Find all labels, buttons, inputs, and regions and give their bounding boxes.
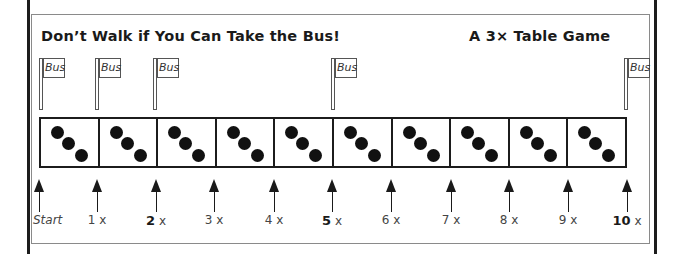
bus-flag: Bus <box>153 58 193 110</box>
arrow-up-icon <box>563 179 573 192</box>
arrow-up-icon <box>327 179 337 192</box>
dice-dot-icon <box>544 149 557 162</box>
arrow-shaft <box>156 192 157 212</box>
multiple-marker: 3 x <box>184 179 244 227</box>
marker-label: 2 x <box>126 213 186 228</box>
dice-dot-icon <box>589 137 602 150</box>
marker-label: 5 x <box>302 213 362 228</box>
dice-dot-icon <box>110 126 123 139</box>
bus-flag-label: Bus <box>335 58 357 78</box>
dice-dot-icon <box>414 137 427 150</box>
arrow-up-icon <box>386 179 396 192</box>
dice-dot-icon <box>355 137 368 150</box>
bus-flag-label: Bus <box>157 58 179 78</box>
multiple-marker: 9 x <box>538 179 598 227</box>
arrow-up-icon <box>151 179 161 192</box>
arrow-shaft <box>451 192 452 212</box>
bus-flag-label: Bus <box>99 58 121 78</box>
arrow-up-icon <box>504 179 514 192</box>
dice-dot-icon <box>51 126 64 139</box>
arrow-up-icon <box>209 179 219 192</box>
arrow-shaft <box>274 192 275 212</box>
multiple-marker: 7 x <box>421 179 481 227</box>
multiple-marker: 2 x <box>126 179 186 228</box>
arrow-shaft <box>97 192 98 212</box>
marker-label: 10 x <box>597 213 657 228</box>
game-title: Don’t Walk if You Can Take the Bus! <box>41 28 340 44</box>
dice-dot-icon <box>531 137 544 150</box>
multiple-marker: 1 x <box>67 179 127 227</box>
arrow-shaft <box>39 192 40 212</box>
dice-dot-icon <box>238 137 251 150</box>
dice-dot-icon <box>168 126 181 139</box>
dice-dot-icon <box>485 149 498 162</box>
bus-flag: Bus <box>95 58 135 110</box>
dice-dot-icon <box>403 126 416 139</box>
dice-dot-icon <box>427 149 440 162</box>
multiple-marker: 10 x <box>597 179 657 228</box>
board-cell <box>41 119 100 166</box>
multiple-marker: 5 x <box>302 179 362 228</box>
board-cell <box>275 119 334 166</box>
arrow-up-icon <box>92 179 102 192</box>
arrow-shaft <box>627 192 628 212</box>
marker-label: Start <box>9 213 69 227</box>
dice-dot-icon <box>134 149 147 162</box>
multiple-marker: 6 x <box>361 179 421 227</box>
dice-dot-icon <box>461 126 474 139</box>
arrow-up-icon <box>446 179 456 192</box>
dice-dot-icon <box>192 149 205 162</box>
arrow-shaft <box>391 192 392 212</box>
multiple-marker: 8 x <box>479 179 539 227</box>
board-cell <box>451 119 510 166</box>
dice-dot-icon <box>296 137 309 150</box>
game-subtitle: A 3× Table Game <box>469 28 610 44</box>
board-cell <box>217 119 276 166</box>
arrow-shaft <box>214 192 215 212</box>
marker-label: 3 x <box>184 213 244 227</box>
dice-dot-icon <box>368 149 381 162</box>
bus-flag: Bus <box>39 58 79 110</box>
bus-flag: Bus <box>624 58 664 110</box>
marker-label: 9 x <box>538 213 598 227</box>
marker-label: 8 x <box>479 213 539 227</box>
dice-dot-icon <box>121 137 134 150</box>
dice-dot-icon <box>520 126 533 139</box>
bus-flag: Bus <box>331 58 371 110</box>
multiple-marker: 4 x <box>244 179 304 227</box>
dice-dot-icon <box>285 126 298 139</box>
board-cell <box>510 119 569 166</box>
dice-dot-icon <box>75 149 88 162</box>
marker-label: 7 x <box>421 213 481 227</box>
arrow-up-icon <box>269 179 279 192</box>
arrow-up-icon <box>34 179 44 192</box>
dice-dot-icon <box>309 149 322 162</box>
board-cell <box>158 119 217 166</box>
marker-label: 6 x <box>361 213 421 227</box>
board-cell <box>334 119 393 166</box>
dice-dot-icon <box>344 126 357 139</box>
bus-flag-label: Bus <box>628 58 650 78</box>
dice-dot-icon <box>602 149 615 162</box>
bus-flag-label: Bus <box>43 58 65 78</box>
arrow-shaft <box>332 192 333 212</box>
dice-dot-icon <box>578 126 591 139</box>
arrow-up-icon <box>622 179 632 192</box>
marker-label: 4 x <box>244 213 304 227</box>
arrow-shaft <box>568 192 569 212</box>
dice-dot-icon <box>62 137 75 150</box>
board-cell <box>568 119 625 166</box>
dice-dot-icon <box>251 149 264 162</box>
board-cell <box>393 119 452 166</box>
marker-label: 1 x <box>67 213 127 227</box>
dice-dot-icon <box>472 137 485 150</box>
dice-dot-icon <box>227 126 240 139</box>
game-board <box>39 117 627 168</box>
start-marker: Start <box>9 179 69 227</box>
board-cell <box>100 119 159 166</box>
dice-dot-icon <box>179 137 192 150</box>
arrow-shaft <box>509 192 510 212</box>
